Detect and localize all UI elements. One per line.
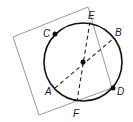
label-d: D (117, 86, 124, 97)
center-point (81, 60, 86, 65)
label-b: B (115, 27, 122, 38)
label-e: E (88, 10, 95, 21)
point-c (53, 32, 58, 37)
label-c: C (43, 28, 51, 39)
label-a: A (44, 86, 52, 97)
label-f: F (73, 108, 80, 119)
point-d (111, 86, 116, 91)
circle-square-diagram: A B C D E F (0, 0, 133, 122)
